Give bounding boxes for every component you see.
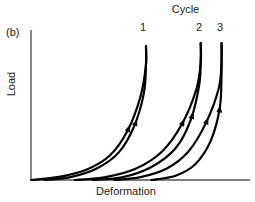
cycle-label-3: 3 (213, 21, 227, 33)
cycle-label-2: 2 (192, 21, 206, 33)
arrow-icon (203, 116, 211, 125)
panel-label: (b) (6, 26, 19, 38)
y-axis-label: Load (5, 59, 17, 109)
figure-container: (b) Cycle 1 2 3 Load Deformation (0, 0, 255, 202)
curve (114, 43, 222, 180)
legend-title: Cycle (58, 3, 255, 15)
curve (75, 43, 201, 180)
curve (31, 46, 146, 180)
x-axis-label: Deformation (66, 185, 186, 197)
curve (44, 46, 146, 180)
cycle-label-1: 1 (136, 21, 150, 33)
hysteresis-curves (31, 43, 222, 180)
